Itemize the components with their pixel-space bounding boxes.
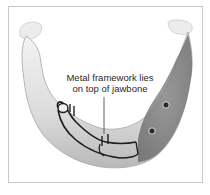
implant-post (163, 102, 169, 108)
framework-loop (58, 104, 68, 113)
implant-post (149, 128, 155, 134)
label-line-1: Metal framework lies (56, 72, 164, 83)
right-condyle (168, 20, 192, 35)
jawbone-illustration (0, 0, 210, 195)
label-line-2: on top of jawbone (56, 83, 164, 94)
framework-label: Metal framework lies on top of jawbone (56, 72, 164, 94)
left-condyle (20, 22, 42, 39)
gum-tissue (138, 34, 192, 162)
